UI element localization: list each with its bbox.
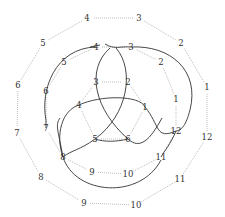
outer-ring-label: 12 (202, 132, 213, 142)
outer-ring-label: 8 (38, 172, 43, 182)
knot-strand-c (79, 98, 176, 134)
knot-diagram: 123456789101112123456789101112123456 (0, 0, 225, 217)
middle-ring-label: 2 (158, 57, 163, 67)
outer-ring-edge (141, 182, 175, 202)
middle-ring-label: 5 (61, 57, 66, 67)
middle-ring-label: 4 (93, 42, 98, 52)
middle-ring-label: 12 (171, 126, 182, 136)
middle-ring-edge (163, 68, 173, 94)
inner-ring-edge (131, 87, 141, 102)
outer-ring-edge (20, 138, 38, 171)
knot-strand-e (60, 105, 79, 157)
inner-ring-label: 3 (93, 77, 98, 87)
diagram-canvas: 123456789101112123456789101112123456 (0, 0, 225, 217)
outer-ring-edge (21, 48, 40, 80)
middle-ring-label: 11 (156, 152, 167, 162)
inner-ring-label: 5 (92, 134, 97, 144)
inner-ring-label: 4 (76, 100, 81, 110)
outer-ring-edge (46, 180, 79, 200)
outer-ring-edge (144, 21, 176, 40)
middle-ring-label: 9 (89, 167, 94, 177)
inner-ring-edge (82, 110, 93, 133)
outer-ring-label: 3 (136, 13, 141, 23)
outer-ring-edge (17, 91, 18, 127)
outer-ring-edge (90, 203, 130, 205)
outer-ring-label: 6 (15, 80, 20, 90)
outer-ring-edge (184, 48, 204, 82)
outer-ring-edge (48, 21, 82, 40)
middle-ring-edge (49, 133, 60, 152)
middle-ring-edge (136, 50, 155, 60)
inner-ring-edge (131, 112, 142, 133)
outer-ring-label: 11 (175, 174, 186, 184)
middle-ring-label: 7 (43, 123, 48, 133)
inner-ring-label: 1 (142, 102, 147, 112)
middle-ring-edge (68, 160, 86, 169)
middle-ring-label: 3 (128, 42, 133, 52)
outer-ring-edge (183, 142, 204, 174)
outer-ring-label: 7 (14, 128, 19, 138)
outer-ring-label: 9 (81, 198, 86, 208)
inner-ring-label: 6 (125, 134, 130, 144)
outer-ring-label: 2 (178, 38, 183, 48)
middle-ring-edge (133, 160, 155, 172)
inner-ring-label: 2 (125, 77, 130, 87)
middle-ring-edge (98, 172, 122, 173)
middle-ring-label: 6 (43, 86, 48, 96)
middle-ring-edge (69, 50, 90, 60)
outer-ring-label: 1 (204, 82, 209, 92)
vertex-labels: 123456789101112123456789101112123456 (14, 13, 212, 210)
middle-ring-label: 10 (123, 169, 134, 179)
outer-ring-label: 4 (84, 13, 89, 23)
outer-ring-label: 5 (40, 38, 45, 48)
inner-ring-edge (83, 87, 93, 100)
middle-ring-label: 8 (60, 152, 65, 162)
outer-ring-label: 10 (131, 200, 142, 210)
knot-strands (45, 44, 192, 188)
middle-ring-label: 1 (173, 94, 178, 104)
knot-arc-bottom (63, 157, 161, 188)
